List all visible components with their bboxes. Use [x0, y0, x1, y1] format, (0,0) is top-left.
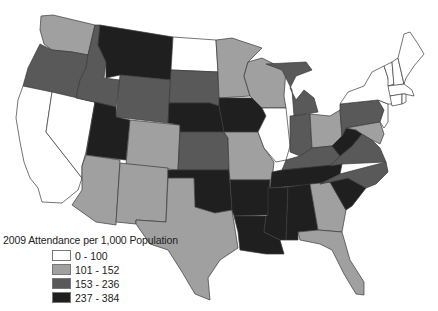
state-connecticut: [390, 94, 402, 106]
state-wyoming: [116, 75, 171, 123]
state-maine: [398, 32, 424, 84]
state-indiana: [290, 114, 312, 156]
state-colorado: [126, 120, 180, 170]
legend-label: 101 - 152: [75, 264, 119, 276]
legend-item: 0 - 100: [52, 249, 173, 262]
legend-label: 237 - 384: [75, 292, 119, 304]
state-kansas: [178, 132, 229, 170]
legend-label: 0 - 100: [75, 250, 108, 262]
state-arkansas: [230, 180, 270, 216]
state-new-mexico: [116, 163, 168, 224]
legend-swatch: [52, 292, 71, 303]
legend-title: 2009 Attendance per 1,000 Population: [3, 234, 173, 246]
legend-item: 153 - 236: [52, 277, 173, 290]
legend-items: 0 - 100 101 - 152 153 - 236 237 - 384: [52, 249, 173, 304]
state-montana: [98, 25, 173, 80]
state-florida: [298, 230, 364, 295]
legend-item: 101 - 152: [52, 263, 173, 276]
legend-label: 153 - 236: [75, 278, 119, 290]
legend-item: 237 - 384: [52, 291, 173, 304]
legend-swatch: [52, 278, 71, 289]
state-south-dakota: [169, 70, 219, 106]
state-north-dakota: [171, 37, 218, 72]
state-rhode-island: [402, 94, 406, 104]
map-legend: 2009 Attendance per 1,000 Population 0 -…: [3, 234, 173, 305]
legend-swatch: [52, 264, 71, 275]
legend-swatch: [52, 250, 71, 261]
